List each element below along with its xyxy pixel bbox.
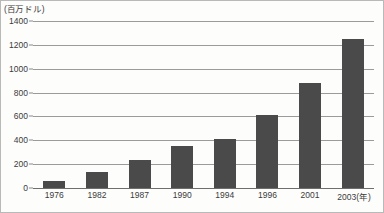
x-axis-tick-label: 2001 [301,190,320,200]
x-axis-tick-label-with-unit: 2003(年) [337,190,371,202]
bar-slot: 2003(年) [331,21,374,188]
bar [171,146,193,188]
figure-border-left [0,0,1,213]
y-axis-tick-label: 200 [14,159,28,169]
y-axis-tick-label: 400 [14,135,28,145]
y-axis-tick-label: 600 [14,111,28,121]
y-axis-tick-label: 800 [14,88,28,98]
bar-slot: 1976 [33,21,76,188]
bar [129,160,151,188]
x-axis-line [33,188,374,189]
bar-slot: 1982 [76,21,119,188]
bar-slot: 1987 [118,21,161,188]
y-axis-tick-label: 1000 [9,64,28,74]
y-axis-tick-label: 1200 [9,40,28,50]
x-axis-tick-label: 1987 [130,190,149,200]
bar-slot: 1996 [246,21,289,188]
bar [86,172,108,188]
bar [256,115,278,188]
x-axis-tick-label: 1976 [45,190,64,200]
bar [214,139,236,188]
y-axis-unit-label: (百万ドル) [4,2,44,14]
bar [43,181,65,188]
plot-area: 0200400600800100012001400 19761982198719… [33,21,374,188]
y-axis-tick-label: 1400 [9,16,28,26]
x-axis-tick-label: 1982 [87,190,106,200]
bar-slot: 1994 [204,21,247,188]
bar-slot: 2001 [289,21,332,188]
x-axis-tick-label: 1990 [173,190,192,200]
bar-slot: 1990 [161,21,204,188]
bar-chart-figure: (百万ドル) 0200400600800100012001400 1976198… [0,0,384,213]
x-axis-tick-label: 1996 [258,190,277,200]
x-axis-tick-label: 1994 [215,190,234,200]
figure-border-bottom [0,212,384,213]
bars-group: 19761982198719901994199620012003(年) [33,21,374,188]
bar [299,83,321,188]
bar [342,39,364,188]
figure-border-top [0,0,384,1]
y-axis-tick-label: 0 [23,183,28,193]
